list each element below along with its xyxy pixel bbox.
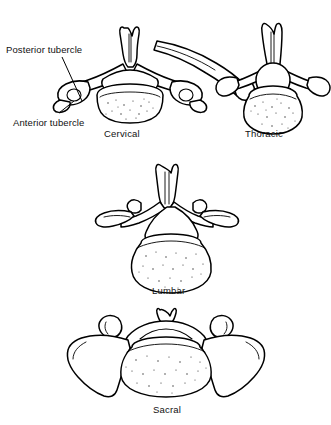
vertebrae-comparison-figure: Posterior tubercle Anterior tubercle Cer…	[0, 0, 331, 425]
lumbar-vertebra-drawing	[95, 164, 238, 293]
caption-thoracic: Thoracic	[245, 128, 283, 139]
caption-sacral: Sacral	[153, 404, 181, 415]
caption-lumbar: Lumbar	[152, 285, 185, 296]
annotation-anterior-tubercle: Anterior tubercle	[13, 117, 84, 128]
sacral-vertebra-drawing	[67, 309, 264, 397]
cervical-vertebra-drawing	[53, 27, 206, 123]
caption-cervical: Cervical	[104, 128, 140, 139]
annotation-posterior-tubercle: Posterior tubercle	[6, 44, 82, 55]
thoracic-vertebra-drawing	[154, 23, 330, 134]
vertebrae-illustration	[0, 0, 331, 425]
